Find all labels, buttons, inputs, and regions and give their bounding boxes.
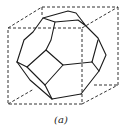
- right-contour: [81, 26, 106, 94]
- bottom-edge: [52, 94, 81, 99]
- cube-connector-top-left: [8, 7, 42, 28]
- cube-connector-bottom-left: [8, 89, 34, 104]
- left-sliver-outer: [17, 62, 52, 99]
- figure-caption: (a): [0, 114, 122, 125]
- right-hexagon-upper-edge: [92, 40, 98, 62]
- truncated-octahedron-diagram: [0, 0, 122, 131]
- cube-connector-bottom-right: [82, 85, 118, 104]
- right-hexagon-lower-edge: [92, 62, 99, 71]
- cube-connector-top-right: [82, 7, 118, 28]
- top-hexagon-face: [43, 11, 86, 26]
- edge-square-right: [63, 62, 92, 65]
- truncated-octahedron: [17, 11, 106, 99]
- left-hexagon-inner-edge: [46, 22, 55, 50]
- center-square-face: [27, 50, 63, 85]
- left-contour: [17, 18, 43, 62]
- edge-square-bottom: [45, 85, 52, 99]
